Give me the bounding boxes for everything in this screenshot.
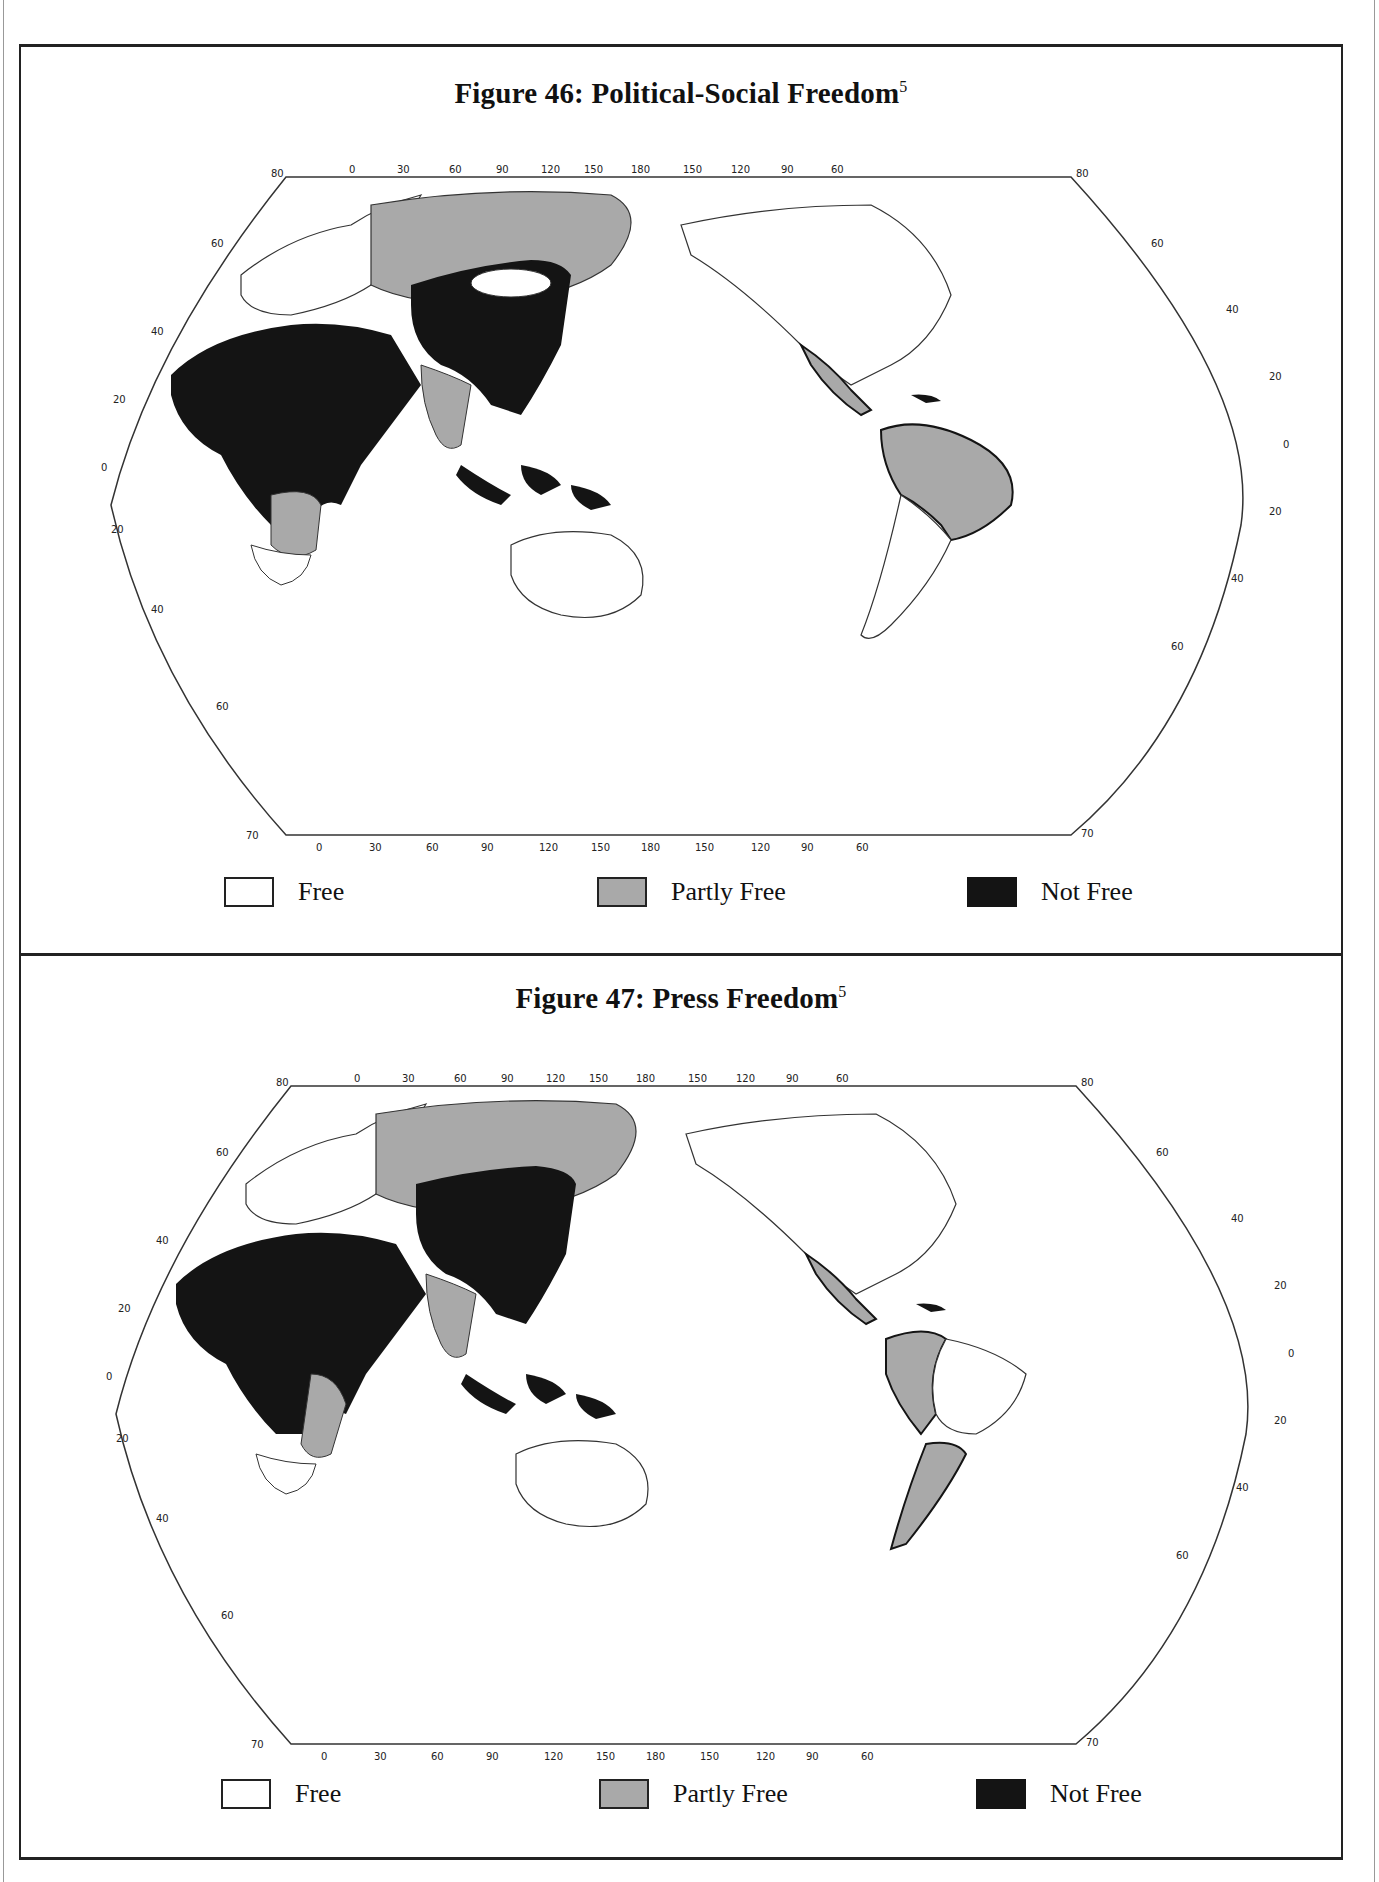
svg-text:70: 70 <box>1081 828 1094 839</box>
world-map-political-social-freedom: 0306090 120150180150 1209060 8080 030609… <box>91 165 1291 855</box>
svg-text:120: 120 <box>756 1751 775 1762</box>
map-legend: Free Partly Free Not Free <box>21 1779 1341 1819</box>
map-legend: Free Partly Free Not Free <box>21 877 1341 917</box>
svg-text:60: 60 <box>1156 1147 1169 1158</box>
svg-text:0: 0 <box>1283 439 1289 450</box>
legend-swatch-not-free <box>967 877 1017 907</box>
svg-text:60: 60 <box>836 1074 849 1084</box>
svg-text:60: 60 <box>449 165 462 175</box>
legend-label: Partly Free <box>671 877 786 907</box>
svg-text:120: 120 <box>751 842 770 853</box>
svg-text:90: 90 <box>501 1074 514 1084</box>
svg-text:120: 120 <box>541 165 560 175</box>
legend-item-free: Free <box>221 1779 341 1809</box>
svg-text:20: 20 <box>1274 1415 1287 1426</box>
svg-text:60: 60 <box>221 1610 234 1621</box>
svg-text:70: 70 <box>246 830 259 841</box>
legend-item-free: Free <box>224 877 344 907</box>
svg-text:60: 60 <box>211 238 224 249</box>
svg-text:180: 180 <box>636 1074 655 1084</box>
figure-title-text: Figure 46: Political-Social Freedom <box>454 77 899 109</box>
svg-text:40: 40 <box>1231 1213 1244 1224</box>
figure-46-panel: Figure 46: Political-Social Freedom5 030… <box>21 47 1341 953</box>
svg-text:20: 20 <box>1269 371 1282 382</box>
legend-swatch-free <box>224 877 274 907</box>
legend-swatch-free <box>221 1779 271 1809</box>
figure-title-text: Figure 47: Press Freedom <box>515 982 838 1014</box>
svg-text:20: 20 <box>1274 1280 1287 1291</box>
svg-text:150: 150 <box>589 1074 608 1084</box>
svg-text:90: 90 <box>781 165 794 175</box>
svg-text:0: 0 <box>354 1074 360 1084</box>
svg-text:80: 80 <box>276 1077 289 1088</box>
svg-text:180: 180 <box>646 1751 665 1762</box>
svg-text:30: 30 <box>369 842 382 853</box>
svg-text:150: 150 <box>688 1074 707 1084</box>
svg-text:80: 80 <box>1081 1077 1094 1088</box>
svg-text:0: 0 <box>101 462 107 473</box>
figure-47-panel: Figure 47: Press Freedom5 0306090 120150… <box>21 956 1341 1857</box>
svg-text:40: 40 <box>1236 1482 1249 1493</box>
legend-label: Free <box>298 877 344 907</box>
svg-text:120: 120 <box>736 1074 755 1084</box>
svg-text:150: 150 <box>700 1751 719 1762</box>
legend-item-partly-free: Partly Free <box>599 1779 788 1809</box>
svg-text:60: 60 <box>454 1074 467 1084</box>
svg-text:0: 0 <box>106 1371 112 1382</box>
svg-text:120: 120 <box>544 1751 563 1762</box>
legend-label: Partly Free <box>673 1779 788 1809</box>
svg-text:60: 60 <box>831 165 844 175</box>
svg-text:90: 90 <box>806 1751 819 1762</box>
svg-text:30: 30 <box>374 1751 387 1762</box>
svg-text:90: 90 <box>786 1074 799 1084</box>
svg-text:40: 40 <box>151 604 164 615</box>
svg-text:90: 90 <box>486 1751 499 1762</box>
legend-label: Not Free <box>1050 1779 1142 1809</box>
legend-swatch-not-free <box>976 1779 1026 1809</box>
svg-text:180: 180 <box>641 842 660 853</box>
figure-title: Figure 47: Press Freedom5 <box>21 982 1341 1015</box>
legend-item-not-free: Not Free <box>967 877 1133 907</box>
svg-text:0: 0 <box>349 165 355 175</box>
svg-text:60: 60 <box>856 842 869 853</box>
svg-text:80: 80 <box>1076 168 1089 179</box>
legend-label: Not Free <box>1041 877 1133 907</box>
footnote-marker: 5 <box>838 983 846 1000</box>
svg-text:0: 0 <box>321 1751 327 1762</box>
legend-item-not-free: Not Free <box>976 1779 1142 1809</box>
svg-text:60: 60 <box>216 701 229 712</box>
svg-text:80: 80 <box>271 168 284 179</box>
svg-text:90: 90 <box>496 165 509 175</box>
svg-text:60: 60 <box>426 842 439 853</box>
svg-text:120: 120 <box>731 165 750 175</box>
svg-text:20: 20 <box>111 524 124 535</box>
svg-text:120: 120 <box>539 842 558 853</box>
svg-text:40: 40 <box>1226 304 1239 315</box>
legend-label: Free <box>295 1779 341 1809</box>
page-edge <box>3 0 4 1882</box>
svg-text:40: 40 <box>151 326 164 337</box>
svg-text:150: 150 <box>596 1751 615 1762</box>
svg-text:90: 90 <box>801 842 814 853</box>
svg-text:60: 60 <box>431 1751 444 1762</box>
svg-text:60: 60 <box>861 1751 874 1762</box>
svg-text:150: 150 <box>695 842 714 853</box>
legend-swatch-partly-free <box>597 877 647 907</box>
svg-text:150: 150 <box>591 842 610 853</box>
svg-text:150: 150 <box>683 165 702 175</box>
svg-text:60: 60 <box>216 1147 229 1158</box>
world-map-press-freedom: 0306090 120150180150 1209060 8080 030609… <box>96 1074 1296 1764</box>
svg-text:120: 120 <box>546 1074 565 1084</box>
svg-text:20: 20 <box>118 1303 131 1314</box>
svg-text:30: 30 <box>397 165 410 175</box>
svg-text:0: 0 <box>316 842 322 853</box>
svg-text:70: 70 <box>251 1739 264 1750</box>
svg-text:40: 40 <box>156 1513 169 1524</box>
svg-text:60: 60 <box>1171 641 1184 652</box>
svg-text:40: 40 <box>156 1235 169 1246</box>
svg-text:90: 90 <box>481 842 494 853</box>
svg-text:20: 20 <box>116 1433 129 1444</box>
figure-title: Figure 46: Political-Social Freedom5 <box>21 77 1341 110</box>
legend-item-partly-free: Partly Free <box>597 877 786 907</box>
svg-text:70: 70 <box>1086 1737 1099 1748</box>
